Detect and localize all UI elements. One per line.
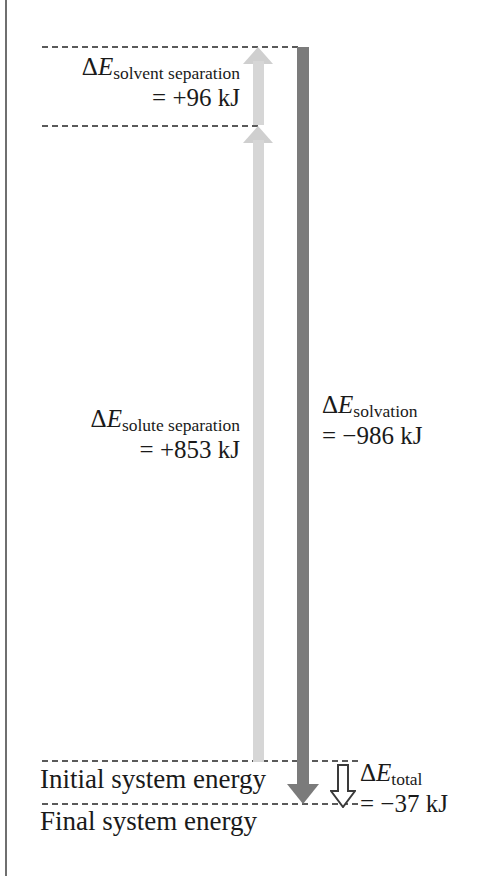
- label-total: ΔEtotal = −37 kJ: [360, 758, 448, 819]
- label-final-system-energy: Final system energy: [40, 806, 257, 838]
- arrow-shaft: [297, 47, 309, 786]
- hollow-down-arrow-total: [330, 764, 356, 808]
- label-solvent-separation-symbol: ΔEsolvent separation: [40, 52, 240, 83]
- arrowhead-icon: [287, 784, 319, 804]
- down-arrow-solvation: [287, 47, 319, 804]
- label-solvation: ΔEsolvation = −986 kJ: [322, 390, 422, 451]
- label-solvation-symbol: ΔEsolvation: [322, 390, 422, 421]
- label-solvent-separation: ΔEsolvent separation = +96 kJ: [40, 52, 240, 113]
- frame-left-rule: [5, 0, 7, 876]
- label-total-value: = −37 kJ: [360, 789, 448, 819]
- label-solvation-value: = −986 kJ: [322, 421, 422, 451]
- label-initial-system-energy: Initial system energy: [40, 764, 266, 796]
- up-arrow-solute-separation: [243, 126, 273, 762]
- label-solvent-separation-value: = +96 kJ: [40, 83, 240, 113]
- label-solute-separation-symbol: ΔEsolute separation: [30, 404, 240, 435]
- label-solute-separation-value: = +853 kJ: [30, 435, 240, 465]
- energy-level-line-second: [42, 125, 258, 127]
- arrow-shaft: [253, 140, 264, 762]
- hollow-arrow-icon: [330, 764, 356, 808]
- energy-diagram: ΔEsolvent separation = +96 kJ ΔEsolute s…: [0, 0, 489, 876]
- label-total-symbol: ΔEtotal: [360, 758, 448, 789]
- label-solute-separation: ΔEsolute separation = +853 kJ: [30, 404, 240, 465]
- arrow-shaft: [253, 61, 264, 125]
- up-arrow-solvent-separation: [243, 47, 273, 125]
